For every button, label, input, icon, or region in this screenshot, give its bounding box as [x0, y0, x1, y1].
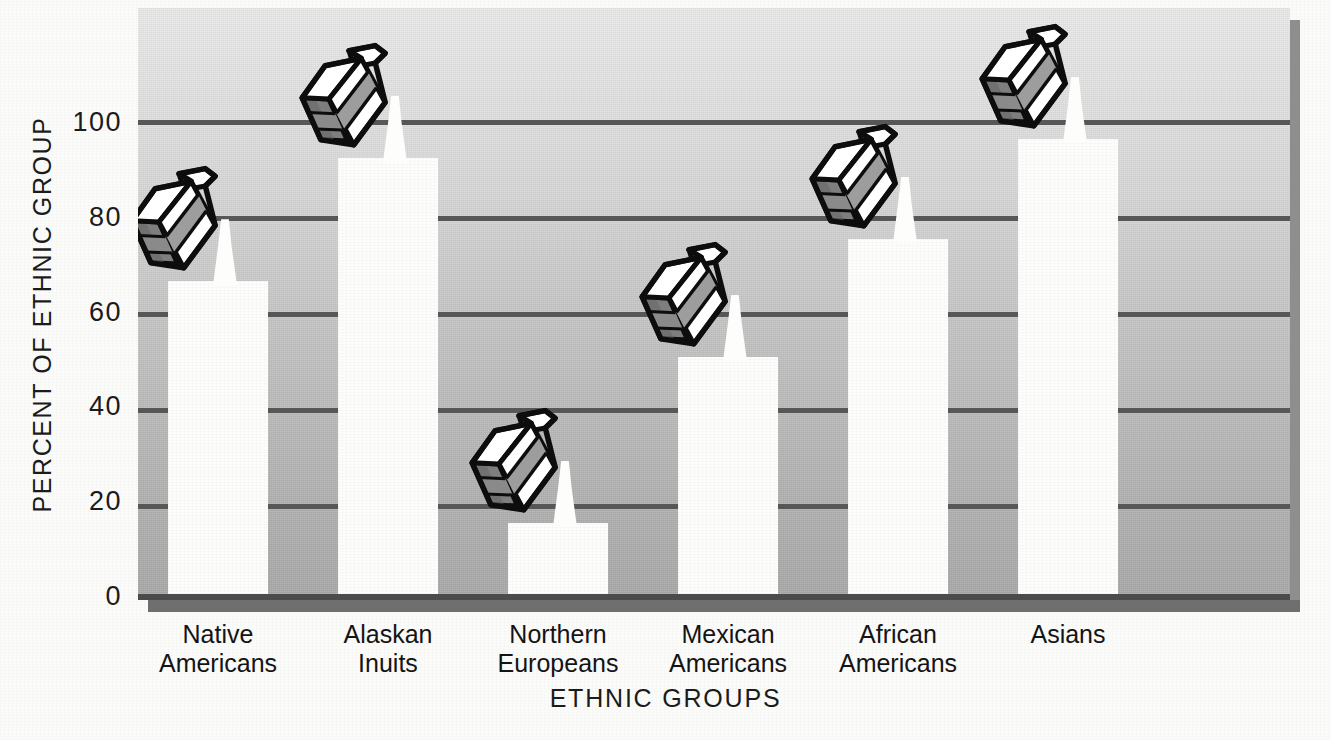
bar-texture	[848, 239, 948, 595]
bar-chart: 020406080100 PERCENT OF ETHNIC GROUP Nat…	[0, 0, 1331, 740]
y-tick-label-0: 0	[105, 581, 122, 612]
x-category-line: Americans	[798, 649, 998, 678]
milk-carton-icon	[138, 163, 238, 275]
milk-carton-icon	[630, 239, 748, 351]
plot-area	[138, 8, 1290, 600]
bar-texture	[168, 281, 268, 594]
milk-carton-icon	[970, 21, 1088, 133]
bar-texture	[508, 523, 608, 594]
milk-carton-icon	[800, 121, 918, 233]
axis-baseline-shadow	[148, 600, 1300, 612]
y-tick-label-60: 60	[89, 296, 122, 327]
bar-native-americans[interactable]	[168, 281, 268, 594]
y-tick-label-100: 100	[72, 107, 122, 138]
milk-carton-icon	[460, 405, 578, 517]
gridline-0	[138, 594, 1290, 600]
bar-texture	[338, 158, 438, 594]
bar-asians[interactable]	[1018, 139, 1118, 594]
milk-carton-icon	[290, 40, 408, 152]
bar-northern-europeans[interactable]	[508, 523, 608, 594]
bar-texture	[1018, 139, 1118, 594]
bar-mexican-americans[interactable]	[678, 357, 778, 594]
y-axis-title: PERCENT OF ETHNIC GROUP	[28, 75, 57, 555]
x-category-line: Asians	[968, 620, 1168, 649]
x-category-label-5: Asians	[968, 620, 1168, 649]
y-axis-ticks: 020406080100	[50, 0, 122, 740]
y-tick-label-40: 40	[89, 391, 122, 422]
bar-texture	[678, 357, 778, 594]
bar-alaskan-inuits[interactable]	[338, 158, 438, 594]
bar-african-americans[interactable]	[848, 239, 948, 595]
x-axis-title: ETHNIC GROUPS	[0, 684, 1331, 713]
y-tick-label-20: 20	[89, 486, 122, 517]
y-tick-label-80: 80	[89, 201, 122, 232]
